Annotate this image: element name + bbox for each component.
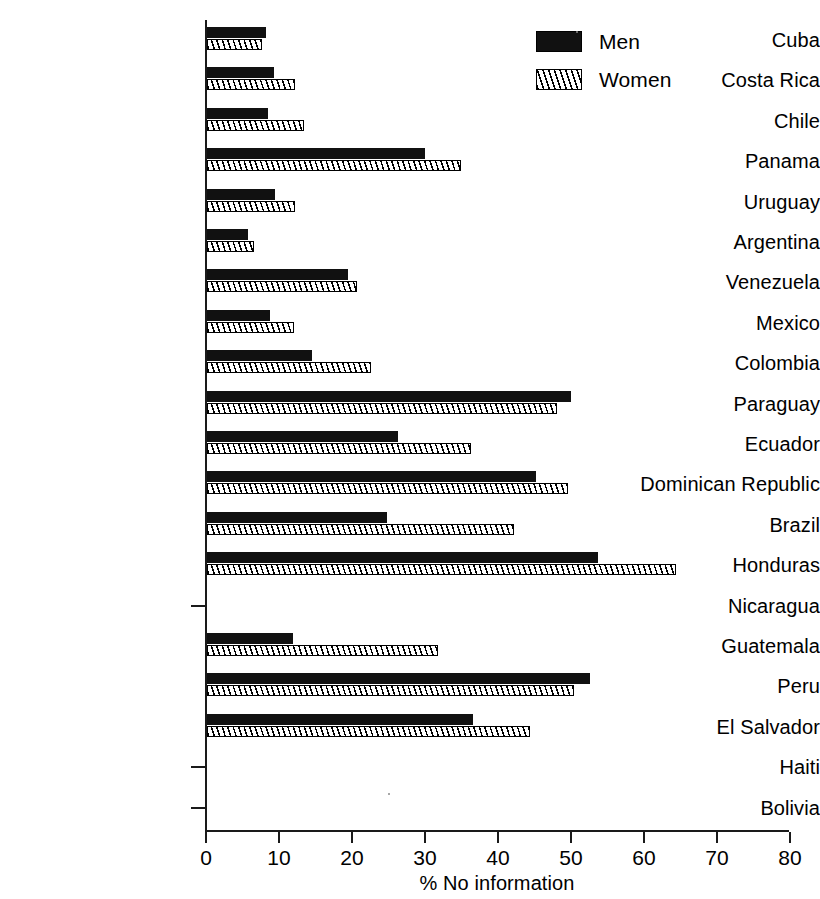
bar-men bbox=[207, 269, 348, 280]
category-label: Nicaragua bbox=[624, 595, 820, 617]
bar-men bbox=[207, 189, 275, 200]
bar-men bbox=[207, 148, 425, 159]
category-label: El Salvador bbox=[624, 716, 820, 738]
bar-men bbox=[207, 27, 266, 38]
bar-row: Colombia bbox=[0, 343, 820, 383]
bar-women bbox=[207, 483, 568, 494]
bar-women bbox=[207, 362, 371, 373]
category-label: Brazil bbox=[624, 514, 820, 536]
bar-pair bbox=[207, 471, 568, 494]
bar-women bbox=[207, 281, 357, 292]
x-tick bbox=[643, 832, 645, 843]
x-axis-title: % No information bbox=[205, 872, 789, 894]
bar-row: Peru bbox=[0, 666, 820, 706]
category-label: Ecuador bbox=[624, 433, 820, 455]
category-label: Paraguay bbox=[624, 393, 820, 415]
bar-row: Brazil bbox=[0, 505, 820, 545]
bar-pair bbox=[207, 108, 304, 131]
x-tick bbox=[351, 832, 353, 843]
x-tick-label: 0 bbox=[176, 846, 236, 870]
bar-pair bbox=[207, 229, 254, 252]
bar-women bbox=[207, 443, 471, 454]
x-tick bbox=[789, 832, 791, 843]
bar-women bbox=[207, 645, 438, 656]
bar-row: El Salvador bbox=[0, 707, 820, 747]
bar-chart: Men Women CubaCosta RicaChilePanamaUrugu… bbox=[0, 0, 820, 899]
category-label: Guatemala bbox=[624, 635, 820, 657]
bar-women bbox=[207, 322, 294, 333]
bar-row: Nicaragua bbox=[0, 586, 820, 626]
bar-men bbox=[207, 350, 312, 361]
category-label: Cuba bbox=[624, 29, 820, 51]
bar-pair bbox=[207, 310, 294, 333]
bar-pair bbox=[207, 633, 438, 656]
bar-men bbox=[207, 471, 536, 482]
bar-men bbox=[207, 512, 387, 523]
bar-women bbox=[207, 685, 574, 696]
bar-pair bbox=[207, 512, 514, 535]
category-label: Bolivia bbox=[624, 797, 820, 819]
bar-men bbox=[207, 673, 590, 684]
x-tick-label: 50 bbox=[541, 846, 601, 870]
bar-row: Costa Rica bbox=[0, 60, 820, 100]
bar-women bbox=[207, 564, 676, 575]
bar-pair bbox=[207, 391, 571, 414]
bar-men bbox=[207, 108, 268, 119]
bar-row: Ecuador bbox=[0, 424, 820, 464]
bar-row: Paraguay bbox=[0, 384, 820, 424]
bar-women bbox=[207, 524, 514, 535]
bar-women bbox=[207, 39, 262, 50]
bar-men bbox=[207, 431, 398, 442]
bar-row: Cuba bbox=[0, 20, 820, 60]
bar-row: Panama bbox=[0, 141, 820, 181]
category-label: Haiti bbox=[624, 756, 820, 778]
bar-women bbox=[207, 241, 254, 252]
bar-row: Guatemala bbox=[0, 626, 820, 666]
bar-women bbox=[207, 79, 295, 90]
bar-pair bbox=[207, 67, 295, 90]
bar-men bbox=[207, 310, 270, 321]
bar-row: Uruguay bbox=[0, 182, 820, 222]
bar-men bbox=[207, 552, 598, 563]
bar-men bbox=[207, 67, 274, 78]
bar-pair bbox=[207, 148, 461, 171]
bar-pair bbox=[207, 552, 676, 575]
bar-women bbox=[207, 403, 557, 414]
x-tick-label: 10 bbox=[249, 846, 309, 870]
bar-women bbox=[207, 160, 461, 171]
zero-value-tick bbox=[191, 605, 206, 607]
x-tick-label: 70 bbox=[687, 846, 747, 870]
x-tick-label: 30 bbox=[395, 846, 455, 870]
bar-row: Dominican Republic bbox=[0, 464, 820, 504]
x-tick bbox=[497, 832, 499, 843]
x-tick bbox=[278, 832, 280, 843]
category-label: Argentina bbox=[624, 231, 820, 253]
category-label: Peru bbox=[624, 675, 820, 697]
category-label: Costa Rica bbox=[624, 69, 820, 91]
category-label: Uruguay bbox=[624, 191, 820, 213]
x-tick bbox=[716, 832, 718, 843]
x-tick-label: 20 bbox=[322, 846, 382, 870]
bar-men bbox=[207, 229, 248, 240]
bar-women bbox=[207, 201, 295, 212]
bar-pair bbox=[207, 673, 590, 696]
category-label: Dominican Republic bbox=[624, 473, 820, 495]
bar-row: Venezuela bbox=[0, 262, 820, 302]
bar-row: Bolivia bbox=[0, 788, 820, 828]
bar-pair bbox=[207, 350, 371, 373]
bar-men bbox=[207, 391, 571, 402]
x-tick-label: 40 bbox=[468, 846, 528, 870]
bar-men bbox=[207, 633, 293, 644]
x-tick bbox=[424, 832, 426, 843]
x-tick-label: 80 bbox=[760, 846, 820, 870]
bar-men bbox=[207, 714, 473, 725]
plot-area: CubaCosta RicaChilePanamaUruguayArgentin… bbox=[0, 0, 820, 899]
category-label: Panama bbox=[624, 150, 820, 172]
zero-value-tick bbox=[191, 807, 206, 809]
bar-row: Honduras bbox=[0, 545, 820, 585]
bar-pair bbox=[207, 189, 295, 212]
bar-women bbox=[207, 726, 530, 737]
bar-row: Haiti bbox=[0, 747, 820, 787]
bar-pair bbox=[207, 431, 471, 454]
zero-value-tick bbox=[191, 766, 206, 768]
